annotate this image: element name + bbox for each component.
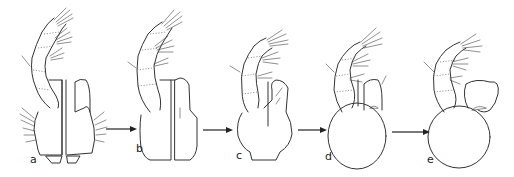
stage-c-drawing [230, 30, 292, 160]
morphology-figure: a b c [0, 0, 514, 177]
label-d: d [325, 150, 332, 163]
arrow-c-to-d [298, 127, 327, 133]
stage-a-drawing [20, 8, 107, 163]
arrow-b-to-c [203, 127, 233, 133]
label-e: e [427, 153, 434, 166]
stage-e-drawing [424, 34, 498, 168]
label-c: c [236, 149, 242, 162]
label-a: a [30, 153, 37, 166]
label-b: b [136, 142, 143, 155]
stage-b-drawing [128, 10, 197, 160]
arrow-a-to-b [106, 126, 137, 132]
stage-d-drawing [326, 28, 386, 169]
arrow-d-to-e [392, 129, 430, 135]
